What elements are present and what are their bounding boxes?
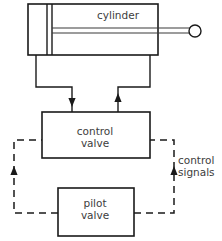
cylinder-to-valve-piping [36,55,150,112]
arrow-down-to-control-valve [68,98,75,107]
cylinder-label: cylinder [97,9,140,21]
schematic-canvas: cylinder control valve pilot valve [0,0,222,241]
arrow-up-control-signal-left [10,166,17,175]
cylinder-assembly: cylinder [28,4,201,55]
arrow-up-control-signal-right [170,166,177,175]
control-valve-label-line1: control [77,125,113,137]
control-valve-label-line2: valve [81,137,109,149]
arrow-up-from-control-valve [114,93,121,102]
pipe-front-port [118,55,150,112]
piston-rod-end-ball [189,25,201,37]
pilot-valve-label-line1: pilot [83,197,106,209]
pneumatic-control-diagram: cylinder control valve pilot valve [0,0,222,241]
pipe-rear-port [36,55,72,112]
control-signals-label-line1: control [178,154,214,166]
pilot-valve-block: pilot valve [58,188,134,236]
control-signals-label-line2: signals [178,166,215,178]
pilot-valve-label-line2: valve [81,209,109,221]
control-valve-block: control valve [42,112,150,158]
